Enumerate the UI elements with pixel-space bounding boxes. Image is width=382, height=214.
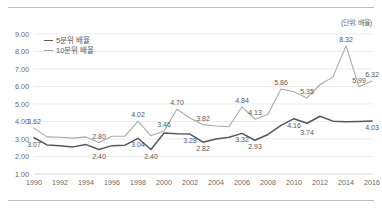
svg-text:4.13: 4.13	[248, 109, 262, 116]
chart-legend: 5분위 배율 10분위 배율	[44, 36, 94, 55]
legend-swatch-icon-1	[44, 50, 53, 51]
svg-text:2.82: 2.82	[196, 145, 210, 152]
svg-text:3.62: 3.62	[27, 118, 41, 125]
svg-text:3.46: 3.46	[157, 121, 171, 128]
svg-text:2008: 2008	[260, 178, 276, 187]
legend-item-0: 5분위 배율	[44, 36, 94, 46]
svg-text:5.35: 5.35	[300, 88, 314, 95]
svg-text:4.84: 4.84	[235, 97, 249, 104]
svg-text:2014: 2014	[338, 178, 354, 187]
svg-text:4.03: 4.03	[365, 124, 379, 131]
svg-text:2.40: 2.40	[144, 153, 158, 160]
svg-text:2012: 2012	[312, 178, 328, 187]
series-lines-group	[34, 46, 372, 150]
svg-text:8.00: 8.00	[15, 47, 29, 56]
svg-text:4.02: 4.02	[131, 111, 145, 118]
svg-text:2.40: 2.40	[92, 153, 106, 160]
svg-text:2016: 2016	[364, 178, 380, 187]
svg-text:8.32: 8.32	[339, 36, 353, 43]
legend-swatch-icon-0	[44, 40, 53, 41]
svg-text:2006: 2006	[234, 178, 250, 187]
svg-text:2.80: 2.80	[92, 133, 106, 140]
svg-text:1990: 1990	[26, 178, 42, 187]
svg-text:2.93: 2.93	[248, 143, 262, 150]
svg-text:5.86: 5.86	[274, 79, 288, 86]
svg-text:3.04: 3.04	[131, 141, 145, 148]
top-divider-rule	[8, 7, 374, 8]
svg-text:1994: 1994	[78, 178, 94, 187]
legend-item-1: 10분위 배율	[44, 46, 94, 56]
unit-note: (단위: 배율)	[341, 17, 372, 27]
svg-text:6.32: 6.32	[365, 71, 379, 78]
svg-text:4.16: 4.16	[287, 122, 301, 129]
svg-text:5.00: 5.00	[15, 100, 29, 109]
svg-text:3.74: 3.74	[300, 129, 314, 136]
legend-label-1: 10분위 배율	[56, 46, 94, 56]
x-axis-tick-labels: 1990199219941996199820002002200420062008…	[26, 178, 380, 187]
svg-text:6.00: 6.00	[15, 82, 29, 91]
svg-text:3.32: 3.32	[235, 136, 249, 143]
svg-text:5.99: 5.99	[352, 77, 366, 84]
svg-text:2.00: 2.00	[15, 152, 29, 161]
y-axis-tick-labels: 1.002.003.004.005.006.007.008.009.00	[15, 30, 29, 179]
gridlines-group	[34, 34, 372, 174]
svg-text:1992: 1992	[52, 178, 68, 187]
svg-text:7.00: 7.00	[15, 65, 29, 74]
svg-text:3.82: 3.82	[196, 115, 210, 122]
svg-text:3.28: 3.28	[183, 137, 197, 144]
svg-text:1998: 1998	[130, 178, 146, 187]
svg-text:2002: 2002	[182, 178, 198, 187]
bottom-divider-rule	[8, 200, 374, 201]
svg-text:2004: 2004	[208, 178, 224, 187]
svg-text:2000: 2000	[156, 178, 172, 187]
svg-text:1996: 1996	[104, 178, 120, 187]
svg-text:3.07: 3.07	[27, 141, 41, 148]
svg-text:2010: 2010	[286, 178, 302, 187]
svg-text:9.00: 9.00	[15, 30, 29, 39]
svg-text:4.70: 4.70	[170, 99, 184, 106]
legend-label-0: 5분위 배율	[56, 36, 90, 46]
